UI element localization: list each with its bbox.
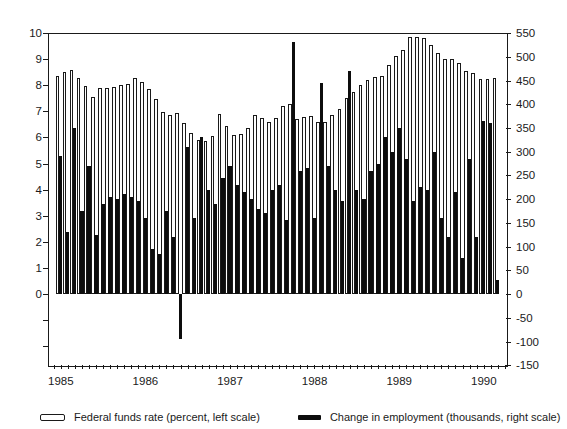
x-axis-month-tick <box>300 365 301 369</box>
x-axis-month-tick <box>392 365 393 369</box>
left-axis-tick-label: 9 <box>12 53 42 65</box>
x-axis-year-label: 1988 <box>293 375 337 387</box>
x-axis-month-tick <box>399 365 400 369</box>
x-axis-month-tick <box>152 365 153 369</box>
x-axis-month-tick <box>434 365 435 369</box>
x-axis-month-tick <box>89 365 90 369</box>
x-axis-month-tick <box>272 365 273 369</box>
right-axis-tick-label: 400 <box>516 98 560 110</box>
left-axis-tick-label: 0 <box>12 288 42 300</box>
x-axis-month-tick <box>82 365 83 369</box>
x-axis-year-label: 1989 <box>377 375 421 387</box>
right-axis-tick-label: 0 <box>516 288 560 300</box>
x-axis-month-tick <box>145 365 146 369</box>
right-axis-tick <box>506 104 511 105</box>
x-axis-month-tick <box>110 365 111 369</box>
x-axis-month-tick <box>230 365 231 369</box>
dual-axis-bar-chart: 109876543210 550500450400350300250200150… <box>0 0 567 429</box>
white-bar-swatch-icon <box>40 414 65 421</box>
x-axis-month-tick <box>75 365 76 369</box>
x-axis-month-tick <box>307 365 308 369</box>
right-axis-tick-label: -100 <box>516 336 560 348</box>
right-axis-tick <box>506 57 511 58</box>
left-axis-tick-label: 2 <box>12 236 42 248</box>
right-axis-tick <box>506 175 511 176</box>
left-axis-tick-label: 3 <box>12 210 42 222</box>
x-axis-month-tick <box>181 365 182 369</box>
right-axis-tick <box>506 152 511 153</box>
x-axis-month-tick <box>293 365 294 369</box>
x-axis-month-tick <box>378 365 379 369</box>
left-axis-tick <box>43 268 48 269</box>
left-axis-minor-tick <box>43 320 48 321</box>
x-axis-month-tick <box>357 365 358 369</box>
right-axis-tick-label: 200 <box>516 193 560 205</box>
right-axis-tick <box>506 199 511 200</box>
x-axis-month-tick <box>350 365 351 369</box>
left-axis-minor-tick <box>43 346 48 347</box>
right-axis-tick <box>506 342 511 343</box>
right-axis-tick-label: -150 <box>516 359 560 371</box>
left-axis-tick <box>43 294 48 295</box>
x-axis-month-tick <box>477 365 478 369</box>
x-axis-month-tick <box>237 365 238 369</box>
right-axis-tick <box>506 247 511 248</box>
left-axis-tick-label: 5 <box>12 158 42 170</box>
x-axis-month-tick <box>505 365 506 369</box>
x-axis-month-tick <box>188 365 189 369</box>
right-axis-tick-label: 350 <box>516 122 560 134</box>
x-axis-month-tick <box>406 365 407 369</box>
x-axis-month-tick <box>343 365 344 369</box>
x-axis-month-tick <box>117 365 118 369</box>
left-axis-tick-label: 10 <box>12 27 42 39</box>
x-axis-month-tick <box>68 365 69 369</box>
right-axis-tick-label: 100 <box>516 241 560 253</box>
x-axis-month-tick <box>279 365 280 369</box>
x-axis-month-tick <box>427 365 428 369</box>
x-axis-month-tick <box>159 365 160 369</box>
x-axis-month-tick <box>329 365 330 369</box>
x-axis-month-tick <box>195 365 196 369</box>
x-axis-month-tick <box>216 365 217 369</box>
left-axis-tick-label: 1 <box>12 262 42 274</box>
x-axis-month-tick <box>491 365 492 369</box>
left-axis-tick <box>43 242 48 243</box>
right-axis-tick <box>506 81 511 82</box>
x-axis-month-tick <box>209 365 210 369</box>
ffr-bar <box>493 78 497 294</box>
x-axis-month-tick <box>138 365 139 369</box>
right-axis-tick <box>506 33 511 34</box>
left-axis-tick <box>43 111 48 112</box>
legend-item-change-in-employment: Change in employment (thousands, right s… <box>298 411 561 423</box>
x-axis-month-tick <box>202 365 203 369</box>
right-axis-tick-label: -50 <box>516 312 560 324</box>
x-axis-year-label: 1986 <box>123 375 167 387</box>
x-axis-month-tick <box>413 365 414 369</box>
ffr-bar <box>175 113 179 294</box>
x-axis-month-tick <box>223 365 224 369</box>
left-axis-tick <box>43 33 48 34</box>
x-axis-month-tick <box>455 365 456 369</box>
legend: Federal funds rate (percent, left scale)… <box>40 411 552 423</box>
x-axis-year-label: 1990 <box>462 375 506 387</box>
left-axis-tick <box>43 216 48 217</box>
x-axis-month-tick <box>173 365 174 369</box>
x-axis-month-tick <box>420 365 421 369</box>
x-axis-year-label: 1985 <box>39 375 83 387</box>
x-axis-month-tick <box>441 365 442 369</box>
x-axis-month-tick <box>54 365 55 369</box>
left-axis-tick-label: 7 <box>12 105 42 117</box>
emp-bar <box>496 280 499 294</box>
left-axis-tick <box>43 164 48 165</box>
x-axis-month-tick <box>251 365 252 369</box>
x-axis-month-tick <box>336 365 337 369</box>
legend-label-federal-funds-rate: Federal funds rate (percent, left scale) <box>74 411 260 423</box>
x-axis-month-tick <box>166 365 167 369</box>
x-axis-month-tick <box>385 365 386 369</box>
left-axis-tick-label: 8 <box>12 79 42 91</box>
legend-label-change-in-employment: Change in employment (thousands, right s… <box>330 411 561 423</box>
left-axis-tick <box>43 137 48 138</box>
x-axis-month-tick <box>286 365 287 369</box>
right-axis-tick-label: 300 <box>516 146 560 158</box>
x-axis-month-tick <box>314 365 315 369</box>
